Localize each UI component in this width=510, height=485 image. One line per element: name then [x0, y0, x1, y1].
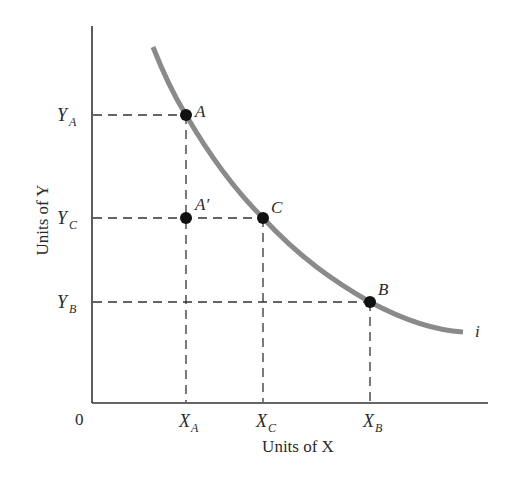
y-axis-title: Units of Y — [33, 184, 52, 255]
point-a-prime-label: A′ — [194, 195, 209, 214]
point-a-prime-marker — [180, 212, 192, 224]
y-tick-yb: Y B — [57, 292, 77, 316]
point-b-marker — [364, 296, 376, 308]
x-tick-xc-main: X — [255, 411, 268, 431]
origin-label: 0 — [75, 410, 84, 429]
y-tick-yc-main: Y — [57, 208, 69, 228]
y-tick-yb-sub: B — [69, 302, 77, 316]
indifference-curve-diagram: A A′ C B i Y A Y C Y B X A X C X B 0 Uni… — [0, 0, 510, 485]
x-tick-xc: X C — [255, 411, 277, 435]
point-a-marker — [180, 109, 192, 121]
y-tick-yc: Y C — [57, 208, 78, 232]
x-tick-xb-sub: B — [375, 421, 383, 435]
point-a-label: A — [194, 102, 206, 121]
indifference-curve-i — [153, 47, 463, 332]
x-tick-xb-main: X — [362, 411, 375, 431]
y-tick-ya-main: Y — [57, 105, 69, 125]
point-c-label: C — [271, 198, 283, 217]
curve-label-i: i — [475, 322, 480, 341]
dashed-guides — [93, 115, 370, 402]
x-tick-xa-sub: A — [190, 421, 199, 435]
x-axis-title: Units of X — [262, 437, 334, 456]
x-tick-xa-main: X — [178, 411, 191, 431]
y-tick-ya-sub: A — [68, 115, 77, 129]
point-c-marker — [257, 212, 269, 224]
x-tick-xa: X A — [178, 411, 199, 435]
y-tick-yc-sub: C — [69, 218, 78, 232]
x-tick-xb: X B — [362, 411, 383, 435]
y-tick-ya: Y A — [57, 105, 77, 129]
point-b-label: B — [378, 280, 389, 299]
y-tick-yb-main: Y — [57, 292, 69, 312]
x-tick-xc-sub: C — [268, 421, 277, 435]
